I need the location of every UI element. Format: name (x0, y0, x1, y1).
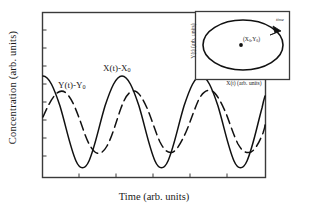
curve-label-y-text: Y(t)-Y (58, 80, 83, 90)
figure-oscillation-plot: Concentration (arb. units) Time (arb. un… (0, 0, 311, 214)
inset-y-axis-title: Y(t) (arb. units) (190, 0, 196, 84)
inset-time-arrow-label: time (276, 17, 284, 22)
x-axis-title: Time (arb. units) (42, 191, 266, 202)
curve-label-y-subscript: 0 (83, 84, 86, 90)
curve-label-y: Y(t)-Y0 (58, 80, 86, 90)
curve-label-x: X(t)-X0 (103, 63, 131, 73)
inset-center-point-marker (239, 43, 243, 47)
plot-canvas (0, 0, 311, 214)
inset-x-axis-title: X(t) (arb. units) (199, 80, 289, 86)
curve-y-dashed (43, 90, 265, 153)
inset-center-point-label: (X0,Y0) (243, 36, 260, 43)
inset-center-label-close: ) (258, 36, 260, 42)
y-axis-title: Concentration (arb. units) (7, 3, 18, 173)
curve-label-x-subscript: 0 (128, 67, 131, 73)
curve-label-x-text: X(t)-X (103, 63, 128, 73)
